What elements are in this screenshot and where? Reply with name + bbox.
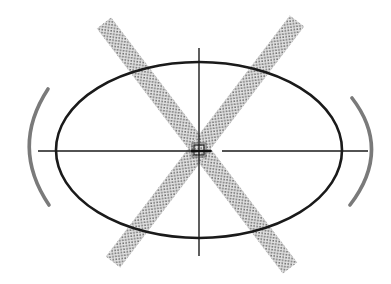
left-bracket bbox=[29, 89, 49, 205]
ellipse-diagram bbox=[0, 0, 391, 284]
